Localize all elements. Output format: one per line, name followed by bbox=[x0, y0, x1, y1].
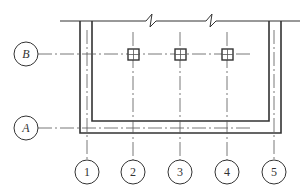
structural-plan-diagram: B A 1 2 3 4 5 bbox=[0, 0, 308, 196]
axis-bubble-3: 3 bbox=[168, 160, 192, 184]
axis-bubble-B: B bbox=[14, 42, 38, 66]
axis-label-5: 5 bbox=[271, 165, 277, 179]
axis-bubble-2: 2 bbox=[121, 160, 145, 184]
axis-label-4: 4 bbox=[224, 165, 230, 179]
axis-label-1: 1 bbox=[84, 165, 90, 179]
axis-bubble-1: 1 bbox=[75, 160, 99, 184]
axis-bubble-4: 4 bbox=[215, 160, 239, 184]
axis-bubble-A: A bbox=[14, 116, 38, 140]
axis-bubble-5: 5 bbox=[262, 160, 286, 184]
wall-outer-line bbox=[80, 21, 281, 133]
wall-outline bbox=[80, 21, 281, 133]
axis-label-A: A bbox=[21, 121, 30, 135]
wall-inner-line bbox=[92, 21, 269, 121]
axis-label-B: B bbox=[22, 47, 30, 61]
axis-label-3: 3 bbox=[177, 165, 183, 179]
axis-label-2: 2 bbox=[130, 165, 136, 179]
top-boundary-line bbox=[60, 14, 300, 27]
